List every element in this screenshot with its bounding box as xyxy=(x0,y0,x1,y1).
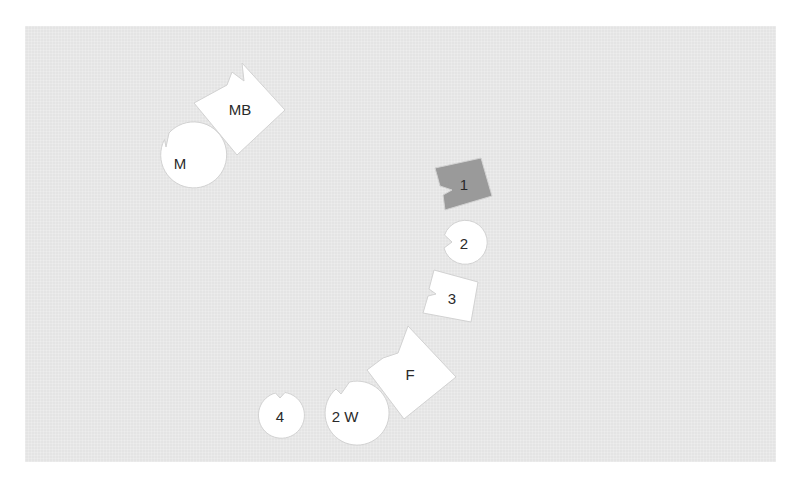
piece-f-label: F xyxy=(405,366,414,383)
piece-2w[interactable]: 2 W xyxy=(325,381,389,445)
piece-3[interactable]: 3 xyxy=(423,270,478,322)
piece-mb-label: MB xyxy=(229,101,252,118)
diagram-svg: MB M 1 2 3 F 2 W xyxy=(0,0,793,487)
piece-3-label: 3 xyxy=(448,290,456,307)
piece-2-label: 2 xyxy=(460,235,468,252)
diagram-canvas: MB M 1 2 3 F 2 W xyxy=(0,0,793,487)
piece-m-shape xyxy=(161,122,227,188)
piece-1-label: 1 xyxy=(460,176,468,193)
piece-4-label: 4 xyxy=(276,408,284,425)
piece-2[interactable]: 2 xyxy=(444,220,487,264)
piece-4[interactable]: 4 xyxy=(258,393,304,439)
piece-m-label: M xyxy=(174,155,187,172)
piece-1[interactable]: 1 xyxy=(435,158,492,210)
piece-2w-label: 2 W xyxy=(332,408,360,425)
piece-m[interactable]: M xyxy=(161,122,227,188)
